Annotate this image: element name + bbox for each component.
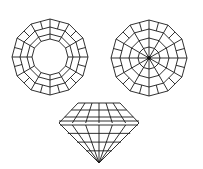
- facet-line: [123, 78, 129, 84]
- facet-line: [140, 85, 142, 93]
- crown-top-view: [12, 19, 88, 95]
- pavilion-bottom-view: [111, 20, 187, 96]
- facet-line: [169, 78, 175, 84]
- facet-line: [176, 65, 184, 67]
- facet-line: [58, 22, 60, 29]
- facet-spoke: [17, 66, 34, 76]
- crown-facet: [113, 103, 126, 123]
- gem-diagram: [0, 0, 203, 169]
- facet-spoke: [66, 66, 83, 76]
- pavilion-facet: [99, 125, 126, 163]
- facet-spoke: [59, 73, 69, 90]
- facet-ring: [27, 34, 73, 80]
- facet-line: [24, 31, 29, 36]
- pavilion-facet: [99, 125, 112, 163]
- facet-line: [169, 32, 175, 38]
- facet-line: [78, 65, 85, 67]
- facet-line: [156, 85, 158, 93]
- facet-spoke: [17, 38, 34, 48]
- crown-facet: [106, 103, 112, 123]
- facet-line: [41, 22, 43, 29]
- facet-line: [70, 31, 75, 36]
- gem-diagram-svg: [0, 0, 203, 169]
- culet-dot: [147, 56, 151, 60]
- facet-line: [78, 48, 85, 50]
- facet-spoke: [31, 24, 41, 41]
- facet-line: [41, 85, 43, 92]
- facet-line: [140, 23, 142, 31]
- side-profile-view: [59, 103, 139, 163]
- facet-spoke: [31, 73, 41, 90]
- facet-line: [114, 49, 122, 51]
- crown-facet: [86, 103, 92, 123]
- facet-line: [15, 65, 22, 67]
- facet-line: [114, 65, 122, 67]
- facet-line: [58, 85, 60, 92]
- facet-line: [70, 77, 75, 82]
- facet-line: [15, 48, 22, 50]
- pavilion-facet: [86, 125, 99, 163]
- facet-line: [176, 49, 184, 51]
- pavilion-facet: [72, 125, 99, 163]
- crown-facet: [72, 103, 85, 123]
- facet-spoke: [66, 38, 83, 48]
- facet-line: [123, 32, 129, 38]
- facet-spoke: [59, 24, 69, 41]
- facet-ring: [32, 39, 68, 75]
- facet-line: [156, 23, 158, 31]
- facet-line: [24, 77, 29, 82]
